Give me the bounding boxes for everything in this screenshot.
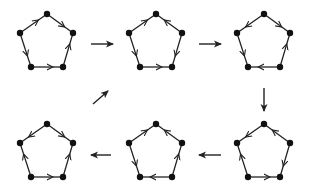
vertex-top xyxy=(153,11,159,17)
vertex-left xyxy=(126,140,132,146)
vertex-bottom-right xyxy=(277,174,283,180)
directed-edge xyxy=(237,124,264,143)
directed-edge xyxy=(237,33,248,67)
vertex-bottom-left xyxy=(245,64,251,70)
vertex-left xyxy=(234,140,240,146)
pentagon-panel-5 xyxy=(126,121,185,180)
pentagon-panel-4 xyxy=(17,121,76,180)
vertex-bottom-left xyxy=(137,64,143,70)
pentagon-panel-6 xyxy=(234,121,293,180)
directed-edge xyxy=(280,143,290,177)
diagram-canvas xyxy=(0,0,311,192)
directed-edge xyxy=(156,14,182,33)
transition-arrows xyxy=(91,44,264,155)
directed-edge xyxy=(47,14,73,33)
vertex-bottom-left xyxy=(28,64,34,70)
directed-edge xyxy=(264,14,290,33)
directed-edge xyxy=(237,14,264,33)
directed-edge xyxy=(20,124,47,143)
vertex-bottom-right xyxy=(169,174,175,180)
vertex-right xyxy=(70,140,76,146)
vertex-bottom-right xyxy=(60,64,66,70)
directed-edge xyxy=(237,143,248,177)
pentagon-panel-3 xyxy=(234,11,293,70)
directed-edge xyxy=(129,124,156,143)
directed-edge xyxy=(63,143,73,177)
vertex-right xyxy=(70,30,76,36)
directed-edge xyxy=(129,33,140,67)
pentagon-panels xyxy=(17,11,293,180)
vertex-left xyxy=(17,30,23,36)
directed-edge xyxy=(20,33,31,67)
pentagon-panel-1 xyxy=(17,11,76,70)
directed-edge xyxy=(156,124,182,143)
directed-edge xyxy=(280,33,290,67)
directed-edge xyxy=(20,14,47,33)
vertex-top xyxy=(153,121,159,127)
directed-edge xyxy=(20,143,31,177)
directed-edge xyxy=(47,124,73,143)
vertex-right xyxy=(287,140,293,146)
pentagon-panel-2 xyxy=(126,11,185,70)
vertex-bottom-left xyxy=(28,174,34,180)
transition-arrow-icon xyxy=(93,91,108,104)
directed-edge xyxy=(63,33,73,67)
directed-edge xyxy=(264,124,290,143)
pentagon-orientation-diagram xyxy=(0,0,311,192)
vertex-top xyxy=(44,121,50,127)
vertex-top xyxy=(261,121,267,127)
vertex-top xyxy=(261,11,267,17)
directed-edge xyxy=(172,143,182,177)
vertex-left xyxy=(17,140,23,146)
vertex-bottom-left xyxy=(137,174,143,180)
vertex-left xyxy=(126,30,132,36)
vertex-bottom-right xyxy=(60,174,66,180)
vertex-left xyxy=(234,30,240,36)
vertex-top xyxy=(44,11,50,17)
directed-edge xyxy=(129,143,140,177)
directed-edge xyxy=(172,33,182,67)
vertex-right xyxy=(287,30,293,36)
directed-edge xyxy=(129,14,156,33)
vertex-right xyxy=(179,30,185,36)
vertex-right xyxy=(179,140,185,146)
vertex-bottom-right xyxy=(169,64,175,70)
vertex-bottom-right xyxy=(277,64,283,70)
vertex-bottom-left xyxy=(245,174,251,180)
